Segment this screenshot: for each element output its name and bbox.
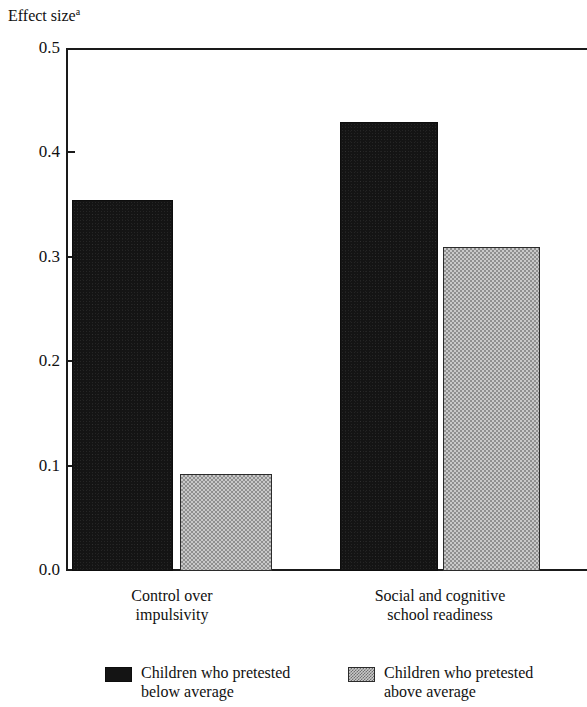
y-axis-tick-label: 0.1 [0, 457, 60, 474]
y-axis-title-superscript: a [76, 6, 80, 17]
y-axis-tick-label: 0.2 [0, 352, 60, 369]
y-axis-tick-label: 0.4 [0, 143, 60, 160]
y-axis-tick-label: 0.0 [0, 561, 60, 578]
y-axis-tick-label: 0.5 [0, 39, 60, 56]
axis-top-line [66, 48, 587, 50]
legend-label-below-average: Children who pretested below average [141, 663, 290, 701]
legend-item-above-average: Children who pretested above average [348, 663, 533, 701]
bar [443, 247, 540, 571]
chart-legend: Children who pretested below average Chi… [0, 663, 587, 707]
legend-label-above-average: Children who pretested above average [384, 663, 533, 701]
bar [180, 474, 272, 571]
x-axis-category-label: Social and cognitiveschool readiness [300, 586, 580, 624]
bar [340, 122, 438, 571]
y-axis-title: Effect sizea [8, 6, 80, 26]
plot-area [66, 48, 587, 571]
legend-swatch-dark-icon [105, 667, 132, 682]
x-axis-category-label: Control overimpulsivity [32, 586, 312, 624]
y-axis-title-text: Effect size [8, 7, 76, 24]
legend-swatch-light-icon [348, 667, 375, 682]
axis-left-line [66, 48, 68, 571]
bar [72, 200, 173, 571]
y-axis-tick-label: 0.3 [0, 248, 60, 265]
effect-size-bar-chart: Effect sizea 0.00.10.20.30.40.5 Control … [0, 0, 587, 707]
legend-item-below-average: Children who pretested below average [105, 663, 290, 701]
